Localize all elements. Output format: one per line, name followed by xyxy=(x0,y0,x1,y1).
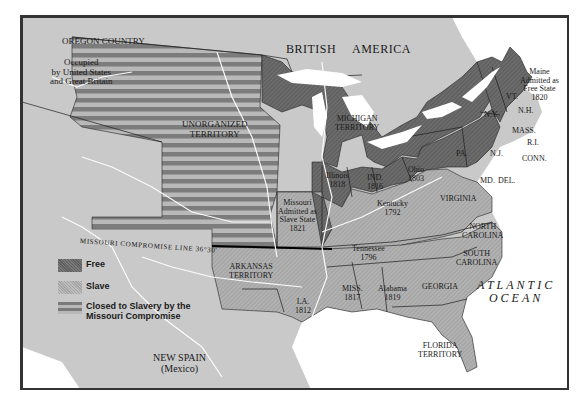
louisiana-label: LA. 1812 xyxy=(295,298,311,315)
legend-item-slave: Slave xyxy=(58,281,191,294)
indiana-label: IND. 1816 xyxy=(367,174,383,191)
nh-label: N.H. xyxy=(518,107,534,116)
map-frame: Oregon Country Occupied by United States… xyxy=(20,15,569,390)
florida-territory-label: Florida Territory xyxy=(418,342,462,359)
new-spain-label: NEW SPAIN (Mexico) xyxy=(153,353,206,375)
unorganized-territory-label: Unorganized Territory xyxy=(182,120,248,139)
maine-label: Maine Admitted as Free State 1820 xyxy=(520,68,559,103)
pa-label: PA. xyxy=(456,150,468,159)
oregon-note: Occupied by United States and Great Brit… xyxy=(50,58,112,87)
arkansas-territory-label: Arkansas Territory xyxy=(229,263,273,280)
oregon-label: Oregon Country xyxy=(62,37,145,47)
tennessee-label: Tennessee 1796 xyxy=(352,245,385,262)
legend-item-closed: Closed to Slavery by the Missouri Compro… xyxy=(58,301,191,321)
closed-swatch xyxy=(58,302,82,314)
michigan-territory-label: Michigan Territory xyxy=(335,115,379,132)
kentucky-label: Kentucky 1792 xyxy=(377,200,408,217)
slave-swatch xyxy=(58,281,82,294)
atlantic-ocean-label: Atlantic Ocean xyxy=(477,279,555,305)
conn-label: CONN. xyxy=(522,155,547,164)
legend-slave-label: Slave xyxy=(86,281,110,291)
legend-free-label: Free xyxy=(86,259,105,269)
vt-label: VT. xyxy=(506,93,518,102)
alabama-label: Alabama 1819 xyxy=(378,285,407,302)
missouri-label: Missouri Admitted as Slave State 1821 xyxy=(278,199,317,234)
north-carolina-label: North Carolina xyxy=(462,223,503,240)
georgia-label: Georgia xyxy=(422,283,458,292)
md-label: MD. xyxy=(480,177,495,186)
del-label: DEL. xyxy=(498,177,516,186)
british-label: British xyxy=(286,43,336,56)
virginia-label: Virginia xyxy=(440,195,476,204)
mississippi-label: MISS. 1817 xyxy=(342,285,363,302)
south-carolina-label: South Carolina xyxy=(456,250,497,267)
illinois-label: Illinois 1818 xyxy=(326,172,349,189)
mass-label: MASS. xyxy=(512,127,536,136)
america-label: America xyxy=(352,43,411,56)
ohio-label: Ohio 1803 xyxy=(408,166,424,183)
legend-closed-label: Closed to Slavery by the Missouri Compro… xyxy=(86,301,191,321)
legend-item-free: Free xyxy=(58,259,191,272)
map-legend: Free Slave Closed to Slavery by the Miss… xyxy=(58,259,191,328)
free-swatch xyxy=(58,259,82,272)
ny-label: N.Y. xyxy=(484,111,499,120)
ri-label: R.I. xyxy=(527,139,539,148)
nj-label: N.J. xyxy=(490,150,503,159)
